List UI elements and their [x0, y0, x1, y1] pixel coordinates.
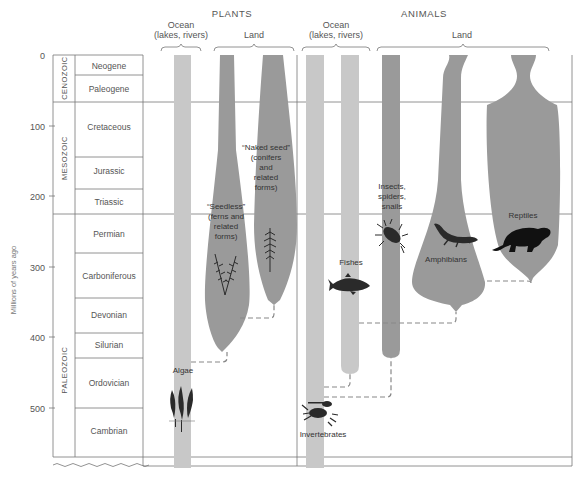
- geologic-timeline-diagram: PLANTS ANIMALS Ocean (lakes, rivers) Lan…: [0, 0, 584, 477]
- period-cretaceous: Cretaceous: [87, 122, 130, 132]
- era-cenozoic: CENOZOIC: [60, 56, 69, 100]
- svg-text:related: related: [214, 222, 238, 231]
- period-silurian: Silurian: [95, 340, 124, 350]
- tick-400: 400: [30, 333, 45, 343]
- period-neogene: Neogene: [92, 61, 127, 71]
- svg-text:and: and: [259, 163, 272, 172]
- animals-header: ANIMALS: [401, 8, 447, 19]
- tick-200: 200: [30, 192, 45, 202]
- y-axis-label: Millions of years ago: [9, 246, 18, 314]
- plants-land-brace: [214, 44, 294, 51]
- plants-ocean-label: Ocean: [168, 20, 195, 30]
- period-jurassic: Jurassic: [93, 166, 125, 176]
- tick-500: 500: [30, 404, 45, 414]
- animals-ocean-label: Ocean: [323, 20, 350, 30]
- tick-0: 0: [40, 51, 45, 61]
- plants-land-label: Land: [244, 30, 264, 40]
- animals-ocean-brace: [302, 44, 370, 51]
- period-devonian: Devonian: [91, 310, 127, 320]
- y-axis: 0 100 200 300 400 500 Millions of years …: [9, 51, 55, 414]
- invertebrates-bar: [306, 55, 324, 468]
- amphibians-to-reptiles-connector: [487, 281, 531, 283]
- header-braces: [161, 44, 549, 51]
- fishes-to-amphibians-connector: [359, 312, 456, 323]
- svg-text:(conifers: (conifers: [251, 153, 282, 162]
- animals-land-brace: [377, 44, 549, 51]
- svg-text:spiders,: spiders,: [378, 192, 406, 201]
- svg-text:(ferns and: (ferns and: [208, 212, 244, 221]
- fishes-label: Fishes: [339, 258, 363, 267]
- period-labels: Neogene Paleogene Cretaceous Jurassic Tr…: [82, 61, 135, 436]
- svg-text:forms): forms): [215, 232, 238, 241]
- tick-300: 300: [30, 263, 45, 273]
- period-permian: Permian: [93, 229, 125, 239]
- period-carboniferous: Carboniferous: [82, 271, 135, 281]
- invertebrates-label: Invertebrates: [300, 430, 347, 439]
- plants-ocean-brace: [161, 44, 201, 51]
- plants-ocean-sublabel: (lakes, rivers): [154, 30, 208, 40]
- period-cambrian: Cambrian: [91, 426, 128, 436]
- invertebrates-to-fishes-connector: [324, 374, 350, 387]
- animals-land-label: Land: [452, 30, 472, 40]
- svg-text:“Naked seed”: “Naked seed”: [242, 143, 290, 152]
- svg-text:snails: snails: [382, 202, 402, 211]
- svg-text:“Seedless”: “Seedless”: [207, 202, 246, 211]
- diagram-canvas: PLANTS ANIMALS Ocean (lakes, rivers) Lan…: [0, 0, 584, 477]
- amphibians-label: Amphibians: [425, 255, 467, 264]
- insects-label: Insects, spiders, snails: [378, 182, 406, 211]
- svg-text:forms): forms): [255, 183, 278, 192]
- svg-text:Insects,: Insects,: [378, 182, 406, 191]
- period-paleogene: Paleogene: [89, 84, 130, 94]
- reptiles-label: Reptiles: [509, 211, 538, 220]
- era-mesozoic: MESOZOIC: [60, 136, 69, 180]
- fishes-bar: [341, 55, 359, 374]
- period-ordovician: Ordovician: [89, 378, 130, 388]
- animals-ocean-sublabel: (lakes, rivers): [309, 30, 363, 40]
- algae-label: Algae: [173, 366, 194, 375]
- tick-100: 100: [30, 122, 45, 132]
- svg-text:related: related: [254, 173, 278, 182]
- algae-to-seedless-connector: [191, 352, 227, 362]
- plants-header: PLANTS: [212, 8, 253, 19]
- era-paleozoic: PALEOZOIC: [60, 346, 69, 393]
- period-triassic: Triassic: [95, 197, 125, 207]
- amphibians-shape: [412, 55, 485, 312]
